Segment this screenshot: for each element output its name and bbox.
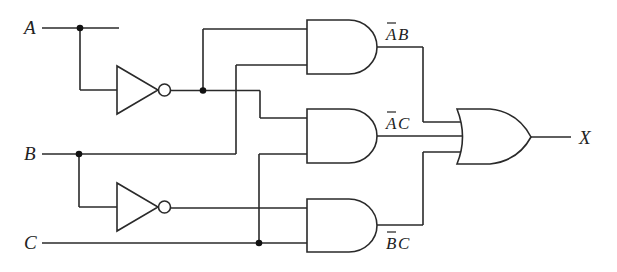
svg-text:A: A	[385, 25, 397, 44]
term-label-not-a-c: A C	[385, 112, 410, 133]
and-gate-3	[307, 199, 377, 252]
and-gate-1	[307, 20, 377, 74]
term-label-not-b-c: B C	[386, 232, 410, 253]
input-label-b: B	[24, 143, 36, 164]
logic-circuit-diagram: A B C	[0, 0, 617, 272]
wire-input-c	[42, 154, 307, 243]
junction-a	[77, 25, 84, 32]
wire-input-b	[42, 65, 307, 207]
svg-text:C: C	[398, 234, 410, 253]
term-label-not-a-b: A B	[385, 23, 409, 44]
wire-and3-to-or	[377, 152, 461, 225]
output-label-x: X	[578, 127, 592, 148]
svg-text:B: B	[398, 25, 409, 44]
wire-not-a-output	[171, 29, 308, 118]
wire-input-a	[42, 28, 119, 90]
and-gate-2	[307, 109, 377, 163]
svg-text:A: A	[385, 114, 397, 133]
or-gate	[457, 109, 531, 164]
wire-and1-to-or	[377, 47, 461, 122]
junction-not-a	[200, 87, 207, 94]
input-label-a: A	[22, 17, 36, 38]
svg-text:C: C	[398, 114, 410, 133]
input-label-c: C	[24, 232, 37, 253]
junction-c	[256, 240, 263, 247]
junction-b	[76, 151, 83, 158]
not-gate-a	[117, 66, 171, 114]
svg-text:B: B	[386, 234, 397, 253]
not-gate-b	[117, 183, 171, 231]
